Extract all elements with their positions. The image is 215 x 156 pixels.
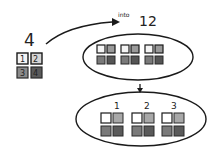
tile-3-label: 3 bbox=[20, 69, 25, 78]
tile-4-label: 4 bbox=[33, 69, 38, 78]
top-tile-groups bbox=[97, 45, 163, 64]
curved-arrow-icon bbox=[46, 22, 112, 44]
tile-1-label: 1 bbox=[20, 55, 25, 64]
target-count-label: 12 bbox=[139, 13, 157, 29]
split-diagram: 4 1 2 3 4 into 12 1 bbox=[0, 0, 215, 156]
group-label-1: 1 bbox=[114, 101, 120, 111]
source-tile-grid: 1 2 3 4 bbox=[17, 53, 42, 78]
source-count-label: 4 bbox=[24, 30, 35, 50]
group-label-3: 3 bbox=[171, 101, 177, 111]
arrowhead-icon bbox=[112, 18, 120, 26]
group-label-2: 2 bbox=[144, 101, 150, 111]
tile-2-label: 2 bbox=[33, 55, 38, 64]
bottom-tile-groups bbox=[101, 113, 184, 136]
into-label: into bbox=[118, 11, 130, 18]
